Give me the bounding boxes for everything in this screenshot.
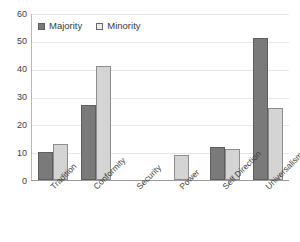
- bar-minority[interactable]: [96, 66, 111, 180]
- bar-group: [203, 14, 246, 180]
- legend-item-minority[interactable]: Minority: [96, 21, 140, 31]
- x-axis: TraditionConformitySecurityPowerSelf Dir…: [31, 181, 289, 242]
- bar-group: [32, 14, 75, 180]
- y-axis: 6050403020100: [0, 0, 30, 242]
- minority-swatch-icon: [96, 23, 103, 30]
- legend-item-majority[interactable]: Majority: [38, 21, 82, 31]
- x-label-cell: Power: [160, 181, 203, 242]
- bar-majority[interactable]: [81, 105, 96, 180]
- majority-swatch-icon: [38, 23, 45, 30]
- y-tick-label: 0: [22, 177, 27, 186]
- y-tick-label: 50: [17, 37, 27, 46]
- bar-majority[interactable]: [210, 147, 225, 180]
- y-tick-label: 20: [17, 121, 27, 130]
- y-tick-label: 40: [17, 65, 27, 74]
- bar-majority[interactable]: [38, 152, 53, 180]
- chart-legend: Majority Minority: [38, 21, 141, 31]
- legend-label-minority: Minority: [107, 21, 140, 31]
- bar-group: [75, 14, 118, 180]
- x-label-cell: Tradition: [31, 181, 74, 242]
- bar-group: [118, 14, 161, 180]
- x-label-cell: Security: [117, 181, 160, 242]
- bar-group: [160, 14, 203, 180]
- x-label-cell: Self Direction: [203, 181, 246, 242]
- x-label-cell: Conformity: [74, 181, 117, 242]
- legend-label-majority: Majority: [49, 21, 82, 31]
- y-tick-label: 30: [17, 93, 27, 102]
- x-label-cell: Universalism: [246, 181, 289, 242]
- bar-chart: 6050403020100 TraditionConformitySecurit…: [0, 0, 300, 242]
- y-tick-label: 60: [17, 10, 27, 19]
- y-tick-label: 10: [17, 149, 27, 158]
